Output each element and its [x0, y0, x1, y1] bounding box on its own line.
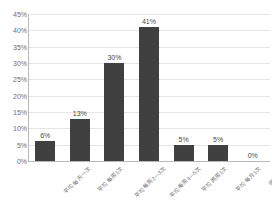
bar-chart: 45% 40% 35% 30% 25% 20% 15% 10% 5% 0% 6%… [0, 0, 272, 211]
bars-layer: 6% 13% 30% 41% 5% 5% 0% [28, 14, 270, 161]
bar[interactable] [174, 145, 194, 161]
bar-value-label: 5% [213, 136, 223, 144]
y-axis-tick-label: 30% [1, 60, 27, 67]
bar-group: 41% [132, 14, 167, 161]
y-axis-tick-label: 35% [1, 44, 27, 51]
bar[interactable] [104, 63, 124, 161]
bar-value-label: 30% [107, 54, 121, 62]
bar[interactable] [139, 27, 159, 161]
y-axis-tick-label: 25% [1, 76, 27, 83]
bar-value-label: 13% [73, 110, 87, 118]
bar-value-label: 5% [179, 136, 189, 144]
bar-value-label: 6% [40, 132, 50, 140]
x-axis-tick-label: 平均每月1次 [235, 165, 263, 193]
y-axis-tick-label: 10% [1, 125, 27, 132]
y-axis-tick-label: 45% [1, 11, 27, 18]
y-axis-tick-label: 0% [1, 158, 27, 165]
bar-group: 0% [235, 14, 270, 161]
x-axis-tick-labels: 平均每天一次 平均每周1次 平均每周2—3次 平均每周4—5次 平均两周1次 平… [28, 163, 270, 211]
bar[interactable] [35, 141, 55, 161]
y-axis-tick-label: 20% [1, 93, 27, 100]
bar[interactable] [208, 145, 228, 161]
y-axis-tick-label: 15% [1, 109, 27, 116]
bar-group: 5% [201, 14, 236, 161]
x-axis-tick-label: 平均每周4—5次 [168, 165, 202, 199]
x-axis-tick-label: 平均两周1次 [200, 165, 228, 193]
y-axis-tick-label: 40% [1, 27, 27, 34]
y-axis-tick-label: 5% [1, 142, 27, 149]
bar-value-label: 41% [142, 18, 156, 26]
x-axis-tick-label: 平均每天一次 [63, 165, 93, 195]
bar[interactable] [70, 119, 90, 161]
y-axis-tick-labels: 45% 40% 35% 30% 25% 20% 15% 10% 5% 0% [0, 0, 27, 211]
bar-group: 30% [97, 14, 132, 161]
bar-group: 13% [63, 14, 98, 161]
x-axis-tick-label: 平均每周1次 [97, 165, 125, 193]
x-axis-line [28, 161, 270, 162]
bar-group: 5% [166, 14, 201, 161]
bar-value-label: 0% [248, 152, 258, 160]
bar-group: 6% [28, 14, 63, 161]
x-axis-tick-label: 很少使用 [267, 165, 272, 186]
x-axis-tick-label: 平均每周2—3次 [134, 165, 168, 199]
